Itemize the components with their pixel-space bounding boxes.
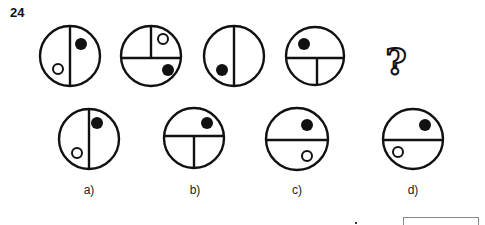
open-dot-icon (302, 151, 312, 161)
filled-dot-icon (162, 64, 174, 76)
sequence-figure-seq-1 (40, 26, 100, 86)
open-dot-icon (53, 64, 63, 74)
option-figure-d[interactable] (383, 109, 443, 169)
option-label-b[interactable]: b) (190, 183, 201, 197)
filled-dot-icon (75, 38, 87, 50)
option-figure-b[interactable] (164, 108, 224, 168)
sequence-figure-seq-2 (121, 26, 181, 86)
sequence-figure-seq-3 (204, 26, 264, 86)
option-figure-a[interactable] (59, 109, 119, 169)
filled-dot-icon (419, 119, 431, 131)
outer-circle (286, 27, 344, 85)
open-dot-icon (393, 147, 403, 157)
filled-dot-icon (201, 117, 213, 129)
filled-dot-icon (91, 117, 103, 129)
sequence-figure-seq-4 (286, 27, 344, 85)
option-label-d[interactable]: d) (408, 183, 419, 197)
answer-box[interactable] (403, 217, 479, 225)
option-label-c[interactable]: c) (292, 183, 302, 197)
open-dot-icon (158, 34, 168, 44)
option-figure-c[interactable] (266, 108, 328, 170)
filled-dot-icon (216, 64, 228, 76)
stray-mark (355, 222, 357, 224)
option-label-a[interactable]: a) (84, 183, 95, 197)
filled-dot-icon (298, 38, 310, 50)
filled-dot-icon (301, 119, 313, 131)
missing-figure-question-mark: ? (385, 40, 406, 82)
open-dot-icon (72, 148, 82, 158)
